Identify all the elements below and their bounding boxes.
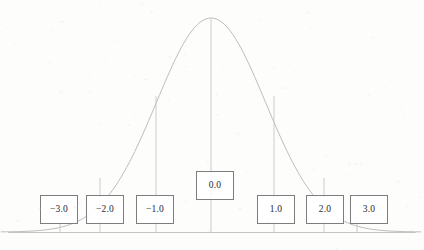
tick-label-box-neg2[interactable]: −2.0 [86, 195, 124, 224]
tick-label-box-pos2[interactable]: 2.0 [306, 195, 344, 224]
tick-label-text: 2.0 [319, 205, 331, 215]
tick-label-box-zero[interactable]: 0.0 [196, 171, 234, 200]
normal-curve-figure: −3.0−2.0−1.00.01.02.03.0 [0, 0, 424, 250]
tick-label-box-neg3[interactable]: −3.0 [40, 195, 78, 224]
tick-label-text: 1.0 [270, 205, 282, 215]
tick-label-text: −3.0 [50, 205, 68, 215]
tick-label-text: −2.0 [96, 205, 114, 215]
tick-label-box-pos1[interactable]: 1.0 [257, 195, 295, 224]
tick-label-box-neg1[interactable]: −1.0 [136, 195, 174, 224]
tick-label-text: −1.0 [146, 205, 164, 215]
tick-label-box-pos3[interactable]: 3.0 [350, 195, 388, 224]
tick-label-text: 0.0 [209, 181, 221, 191]
tick-label-text: 3.0 [363, 205, 375, 215]
